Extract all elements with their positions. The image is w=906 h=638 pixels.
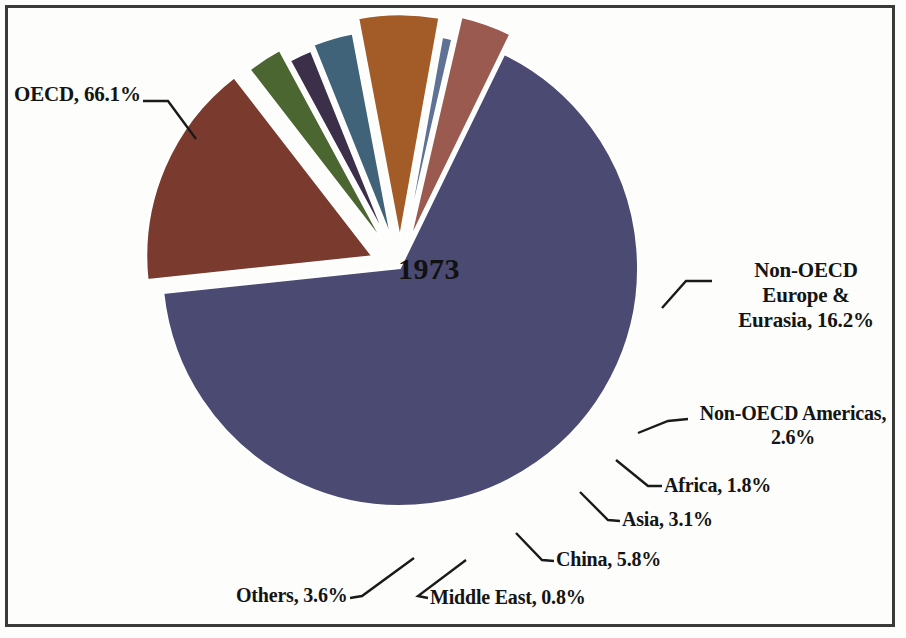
leader-line-non-oecd-europe — [662, 281, 712, 308]
leader-line-africa — [616, 460, 662, 486]
slice-label-asia: Asia, 3.1% — [622, 508, 713, 532]
pie-chart-figure: OECD, 66.1%Non-OECD Europe & Eurasia, 16… — [0, 0, 906, 638]
slice-label-oecd: OECD, 66.1% — [14, 82, 141, 107]
center-year-label: 1973 — [398, 252, 460, 286]
slice-label-africa: Africa, 1.8% — [664, 474, 771, 498]
slice-label-non-oecd-americas: Non-OECD Americas, 2.6% — [690, 402, 896, 449]
pie-slices-group: OECD, 66.1%Non-OECD Europe & Eurasia, 16… — [146, 14, 638, 506]
leader-line-non-oecd-americas — [638, 419, 688, 433]
leader-line-china — [516, 533, 554, 561]
slice-label-others: Others, 3.6% — [236, 584, 347, 608]
slice-label-non-oecd-europe-eurasia: Non-OECD Europe & Eurasia, 16.2% — [716, 258, 896, 332]
slice-label-china: China, 5.8% — [556, 548, 661, 572]
slice-label-middle-east: Middle East, 0.8% — [430, 586, 586, 610]
leader-line-asia — [580, 492, 620, 521]
leader-line-others — [350, 558, 414, 598]
